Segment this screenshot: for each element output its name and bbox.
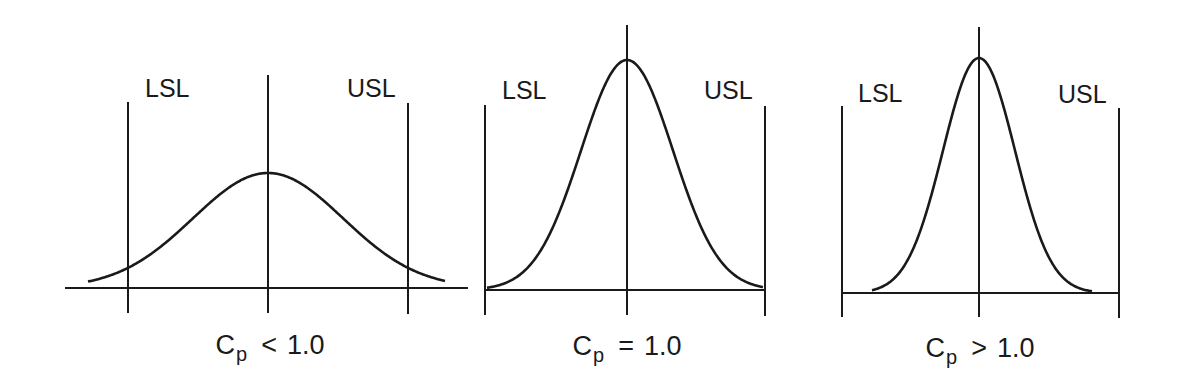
- cp-symbol: C: [216, 330, 236, 360]
- cp-subscript: p: [236, 343, 247, 365]
- usl-label: USL: [704, 78, 753, 103]
- cp-value: 1.0: [644, 331, 682, 361]
- cp-operator: <: [261, 330, 277, 360]
- cp-symbol: C: [573, 331, 593, 361]
- lsl-label: LSL: [502, 78, 546, 103]
- cp-subscript: p: [946, 346, 957, 368]
- cp-diagram-canvas: [0, 0, 1178, 377]
- cp-operator: >: [971, 333, 987, 363]
- cp-operator: =: [618, 331, 634, 361]
- usl-label: USL: [1058, 82, 1107, 107]
- usl-label: USL: [347, 76, 396, 101]
- cp-diagram: LSL USL Cp<1.0 LSL USL Cp=1.0 LSL USL Cp…: [0, 0, 1178, 377]
- cp-value: 1.0: [997, 333, 1035, 363]
- normal-distribution-curve: [88, 173, 445, 282]
- cp-caption: Cp>1.0: [926, 335, 1035, 362]
- cp-caption: Cp<1.0: [216, 332, 325, 359]
- lsl-label: LSL: [145, 76, 189, 101]
- lsl-label: LSL: [858, 81, 902, 106]
- cp-symbol: C: [926, 333, 946, 363]
- cp-caption: Cp=1.0: [573, 333, 682, 360]
- cp-value: 1.0: [287, 330, 325, 360]
- cp-subscript: p: [593, 344, 604, 366]
